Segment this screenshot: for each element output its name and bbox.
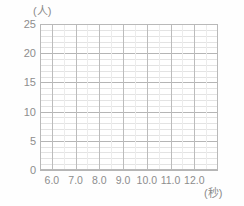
gridline-horizontal-minor: [40, 100, 218, 101]
gridline-horizontal-minor: [40, 106, 218, 107]
plot-frame-right: [217, 24, 218, 170]
gridline-vertical-minor: [111, 24, 112, 170]
gridline-horizontal-minor: [40, 59, 218, 60]
gridline-horizontal-minor: [40, 42, 218, 43]
x-axis-tick-label: 10.0: [137, 174, 157, 186]
gridline-horizontal-minor: [40, 164, 218, 165]
gridline-vertical-major: [147, 24, 148, 170]
y-axis-tick-label: 0: [14, 164, 36, 176]
plot-frame-bottom: [40, 169, 218, 170]
gridline-vertical-major: [99, 24, 100, 170]
y-axis-unit-label: (人): [33, 2, 51, 18]
x-axis-tick-label: 7.0: [68, 174, 83, 186]
gridline-horizontal-minor: [40, 71, 218, 72]
gridline-horizontal-major: [40, 141, 218, 142]
gridline-horizontal-minor: [40, 147, 218, 148]
y-axis-tick-label: 5: [14, 135, 36, 147]
y-axis-tick-labels: 2520151050: [12, 24, 36, 170]
plot-frame-top: [40, 24, 218, 25]
gridline-horizontal-major: [40, 82, 218, 83]
gridline-horizontal-minor: [40, 47, 218, 48]
gridline-vertical-minor: [159, 24, 160, 170]
gridline-vertical-minor: [87, 24, 88, 170]
x-axis-tick-label: 6.0: [45, 174, 60, 186]
gridline-horizontal-minor: [40, 77, 218, 78]
gridline-horizontal-major: [40, 112, 218, 113]
x-axis-tick-label: 11.0: [161, 174, 181, 186]
gridline-horizontal-major: [40, 170, 218, 171]
plot-frame-left: [40, 24, 41, 170]
plot-area: [40, 24, 218, 170]
gridline-vertical-minor: [64, 24, 65, 170]
gridline-horizontal-minor: [40, 152, 218, 153]
gridline-horizontal-major: [40, 53, 218, 54]
y-axis-tick-label: 20: [14, 47, 36, 59]
gridline-vertical-minor: [135, 24, 136, 170]
gridline-horizontal-minor: [40, 129, 218, 130]
gridline-horizontal-minor: [40, 123, 218, 124]
gridline-horizontal-minor: [40, 36, 218, 37]
x-axis-tick-label: 12.0: [184, 174, 204, 186]
gridline-horizontal-minor: [40, 65, 218, 66]
gridline-horizontal-minor: [40, 30, 218, 31]
y-axis-tick-label: 25: [14, 18, 36, 30]
gridline-vertical-minor: [182, 24, 183, 170]
gridline-horizontal-minor: [40, 117, 218, 118]
gridline-vertical-major: [123, 24, 124, 170]
gridline-vertical-major: [171, 24, 172, 170]
gridline-horizontal-minor: [40, 135, 218, 136]
chart-screenshot: (人) (秒) 2520151050 6.07.08.09.010.011.01…: [0, 0, 244, 206]
x-axis-tick-labels: 6.07.08.09.010.011.012.0: [40, 174, 218, 190]
gridline-vertical-major: [76, 24, 77, 170]
gridline-horizontal-minor: [40, 158, 218, 159]
x-axis-tick-label: 8.0: [92, 174, 107, 186]
gridline-horizontal-minor: [40, 94, 218, 95]
gridline-horizontal-minor: [40, 88, 218, 89]
gridline-vertical-major: [52, 24, 53, 170]
gridline-vertical-major: [194, 24, 195, 170]
gridline-vertical-minor: [206, 24, 207, 170]
x-axis-tick-label: 9.0: [116, 174, 131, 186]
y-axis-tick-label: 10: [14, 106, 36, 118]
y-axis-tick-label: 15: [14, 76, 36, 88]
